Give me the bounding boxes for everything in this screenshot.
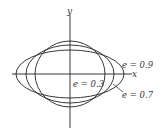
y-axis-label: y (66, 6, 73, 16)
label-e-0-9: e = 0.9 (122, 60, 154, 70)
label-e-0-3: e = 0.3 (73, 79, 104, 89)
label-e-0-7: e = 0.7 (122, 90, 154, 100)
ellipse-diagram: y x e = 0.9 e = 0.3 e = 0.7 (0, 0, 162, 139)
x-axis-label: x (132, 69, 137, 79)
